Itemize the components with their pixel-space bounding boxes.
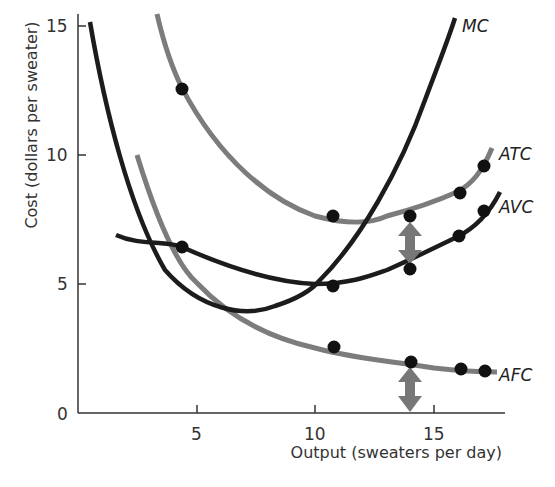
atc-point — [404, 210, 417, 223]
y-tick-label-5: 5 — [57, 274, 68, 294]
x-tick-label-15: 15 — [423, 424, 445, 444]
avc-point — [453, 230, 466, 243]
cost-curves-chart: 15 10 5 0 5 10 15 Output (sweaters per d… — [0, 0, 555, 487]
afc-label: AFC — [498, 365, 532, 385]
avc-label: AVC — [498, 197, 533, 217]
mc-curve — [90, 18, 455, 311]
afc-point — [328, 341, 341, 354]
atc-point — [176, 83, 189, 96]
y-tick-label-15: 15 — [46, 16, 68, 36]
atc-curve — [157, 14, 492, 222]
avc-point — [404, 263, 417, 276]
avc-point — [478, 205, 491, 218]
afc-point — [455, 363, 468, 376]
avc-curve — [116, 192, 500, 284]
y-tick-label-10: 10 — [46, 145, 68, 165]
origin-label: 0 — [57, 404, 68, 424]
afc-curve — [137, 155, 497, 372]
avc-point — [176, 241, 189, 254]
afc-point — [405, 356, 418, 369]
afc-point — [479, 365, 492, 378]
y-axis-title: Cost (dollars per sweater) — [22, 21, 41, 228]
x-tick-label-10: 10 — [304, 424, 326, 444]
avc-point — [327, 280, 340, 293]
atc-point — [478, 160, 491, 173]
x-axis-title: Output (sweaters per day) — [291, 443, 502, 462]
mc-label: MC — [462, 16, 489, 36]
atc-point — [454, 187, 467, 200]
atc-label: ATC — [498, 144, 532, 164]
x-tick-label-5: 5 — [191, 424, 202, 444]
atc-point — [327, 210, 340, 223]
afc-gap-arrow — [398, 367, 422, 412]
